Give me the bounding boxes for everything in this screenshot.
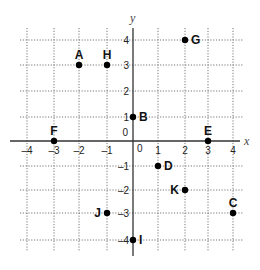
point-marker — [155, 163, 161, 169]
point-marker — [76, 62, 82, 68]
x-tick-label: 1 — [155, 145, 161, 156]
point-f: F — [50, 124, 57, 144]
x-tick-label: –1 — [101, 145, 113, 156]
point-marker — [182, 187, 188, 193]
y-tick-label: 3 — [123, 60, 129, 71]
point-marker — [130, 114, 136, 120]
y-tick-label: 2 — [123, 86, 129, 97]
point-label: D — [164, 159, 173, 173]
point-label: K — [170, 183, 179, 197]
y-axis-label: y — [129, 11, 136, 25]
axes: xy — [10, 11, 250, 256]
point-marker — [130, 237, 136, 243]
y-tick-label: –4 — [118, 235, 130, 246]
point-h: H — [103, 48, 112, 68]
point-label: H — [103, 48, 112, 62]
x-tick-label: –2 — [73, 145, 85, 156]
point-label: F — [50, 124, 57, 138]
y-tick-label: 1 — [123, 112, 129, 123]
point-k: K — [170, 183, 188, 197]
y-tick-label: –1 — [118, 161, 130, 172]
point-marker — [205, 138, 211, 144]
point-label: J — [94, 206, 101, 220]
x-tick-label: –4 — [21, 145, 33, 156]
point-marker — [182, 37, 188, 43]
point-i: I — [130, 233, 143, 247]
point-marker — [104, 210, 110, 216]
point-marker — [51, 138, 57, 144]
y-tick-label: –2 — [118, 185, 130, 196]
point-marker — [104, 62, 110, 68]
x-tick-label: 2 — [182, 145, 188, 156]
point-marker — [230, 210, 236, 216]
point-label: B — [139, 110, 148, 124]
x-axis-label: x — [243, 134, 250, 148]
point-label: A — [75, 48, 84, 62]
point-label: G — [191, 33, 200, 47]
x-tick-label: 3 — [205, 145, 211, 156]
x-tick-label: –3 — [48, 145, 60, 156]
origin-label-y: 0 — [122, 127, 128, 138]
point-label: E — [204, 124, 212, 138]
origin-label-x: 0 — [137, 143, 143, 154]
point-label: I — [139, 233, 142, 247]
y-tick-label: 4 — [123, 35, 129, 46]
x-tick-label: 4 — [230, 145, 236, 156]
coordinate-plane: xy –4–3–2–112344321–1–2–3–400 AHGBFEDKJC… — [0, 0, 260, 270]
y-tick-label: –3 — [118, 208, 130, 219]
point-label: C — [229, 196, 238, 210]
point-e: E — [204, 124, 212, 144]
